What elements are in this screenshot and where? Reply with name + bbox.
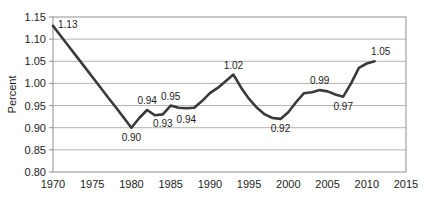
data-point-label: 0.90: [122, 132, 142, 143]
data-point-label: 1.13: [58, 19, 78, 30]
x-tick-label: 2010: [355, 178, 379, 190]
y-tick-label: 1.05: [25, 55, 46, 67]
y-tick-label: 0.90: [25, 122, 46, 134]
x-tick-label: 1980: [119, 178, 143, 190]
x-tick-label: 1975: [80, 178, 104, 190]
data-point-label: 1.02: [224, 60, 244, 71]
data-point-label: 0.92: [271, 123, 291, 134]
plot-area: Percent 0.800.850.900.951.001.051.101.15…: [0, 0, 430, 205]
data-point-label: 0.93: [153, 118, 173, 129]
y-axis-title: Percent: [6, 76, 18, 114]
y-tick-label: 1.15: [25, 11, 46, 23]
x-tick-label: 1995: [237, 178, 261, 190]
data-point-label: 0.95: [161, 91, 181, 102]
line-chart-figure: Percent 0.800.850.900.951.001.051.101.15…: [0, 0, 430, 205]
y-tick-label: 1.00: [25, 77, 46, 89]
data-point-label: 0.94: [137, 95, 157, 106]
y-tick-label: 0.80: [25, 166, 46, 178]
x-tick-label: 2000: [276, 178, 300, 190]
data-point-label: 0.97: [334, 101, 354, 112]
x-tick-label: 2015: [394, 178, 418, 190]
y-tick-label: 1.10: [25, 33, 46, 45]
data-point-label: 1.05: [371, 46, 391, 57]
x-tick-label: 1985: [158, 178, 182, 190]
y-tick-label: 0.85: [25, 144, 46, 156]
data-point-label: 0.99: [310, 75, 330, 86]
x-tick-label: 1990: [198, 178, 222, 190]
data-point-label: 0.94: [177, 114, 197, 125]
y-tick-label: 0.95: [25, 100, 46, 112]
x-tick-label: 1970: [41, 178, 65, 190]
x-tick-label: 2005: [315, 178, 339, 190]
